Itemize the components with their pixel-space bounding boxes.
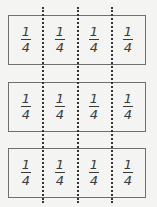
- fraction-cell: 14: [9, 149, 43, 197]
- denominator: 4: [56, 175, 64, 187]
- denominator: 4: [56, 109, 64, 121]
- numerator: 1: [124, 26, 132, 38]
- numerator: 1: [56, 159, 64, 171]
- denominator: 4: [90, 42, 98, 54]
- denominator: 4: [90, 175, 98, 187]
- numerator: 1: [56, 93, 64, 105]
- denominator: 4: [124, 109, 132, 121]
- numerator: 1: [124, 159, 132, 171]
- fraction-cell: 14: [43, 149, 77, 197]
- numerator: 1: [22, 26, 30, 38]
- denominator: 4: [90, 109, 98, 121]
- fraction-cell: 14: [77, 83, 111, 131]
- numerator: 1: [90, 93, 98, 105]
- numerator: 1: [22, 159, 30, 171]
- numerator: 1: [124, 93, 132, 105]
- fraction-cell: 14: [111, 149, 145, 197]
- fold-line-1: [42, 7, 44, 203]
- denominator: 4: [124, 175, 132, 187]
- fold-line-2: [77, 7, 79, 203]
- fraction-cell: 14: [9, 83, 43, 131]
- fraction-cell: 14: [111, 83, 145, 131]
- numerator: 1: [56, 26, 64, 38]
- denominator: 4: [124, 42, 132, 54]
- fraction-cell: 14: [9, 16, 43, 64]
- denominator: 4: [22, 175, 30, 187]
- fraction-cell: 14: [111, 16, 145, 64]
- denominator: 4: [56, 42, 64, 54]
- denominator: 4: [22, 42, 30, 54]
- fold-line-3: [111, 7, 113, 203]
- numerator: 1: [22, 93, 30, 105]
- fraction-cell: 14: [77, 149, 111, 197]
- numerator: 1: [90, 26, 98, 38]
- numerator: 1: [90, 159, 98, 171]
- fraction-cell: 14: [77, 16, 111, 64]
- denominator: 4: [22, 109, 30, 121]
- fraction-cell: 14: [43, 83, 77, 131]
- fraction-cell: 14: [43, 16, 77, 64]
